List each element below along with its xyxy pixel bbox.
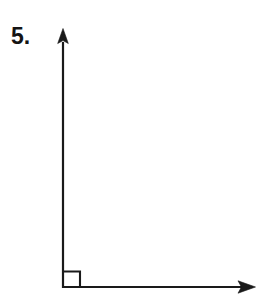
figure-canvas: 5. — [0, 0, 264, 298]
vertical-ray-arrowhead-icon — [58, 29, 69, 44]
right-angle-diagram — [0, 0, 264, 298]
right-angle-square-marker — [63, 272, 80, 289]
